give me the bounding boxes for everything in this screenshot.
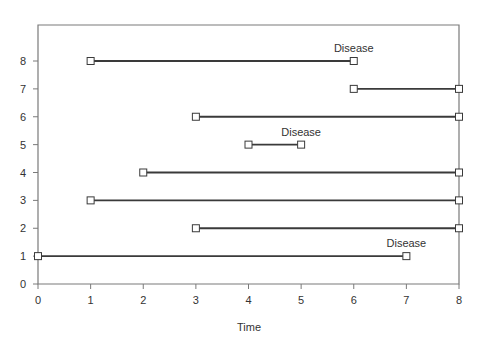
y-tick-label: 4	[20, 167, 26, 179]
end-marker-icon	[456, 225, 463, 232]
subject-segment	[87, 197, 462, 204]
subject-segment	[192, 113, 462, 120]
follow-up-chart: 012345678 012345678 DiseaseDiseaseDiseas…	[0, 0, 482, 338]
start-marker-icon	[245, 141, 252, 148]
subject-segment	[35, 253, 410, 260]
disease-label: Disease	[387, 237, 427, 249]
y-tick-label: 5	[20, 139, 26, 151]
x-tick-label: 0	[35, 294, 41, 306]
x-tick-label: 8	[456, 294, 462, 306]
subject-segment	[192, 225, 462, 232]
start-marker-icon	[87, 197, 94, 204]
y-tick-label: 2	[20, 222, 26, 234]
start-marker-icon	[350, 85, 357, 92]
end-marker-icon	[403, 253, 410, 260]
x-axis: 012345678	[35, 284, 462, 306]
start-marker-icon	[192, 113, 199, 120]
y-tick-label: 8	[20, 55, 26, 67]
x-tick-label: 7	[403, 294, 409, 306]
y-tick-label: 7	[20, 83, 26, 95]
disease-label: Disease	[281, 126, 321, 138]
y-tick-label: 0	[20, 278, 26, 290]
end-marker-icon	[456, 169, 463, 176]
x-tick-label: 6	[351, 294, 357, 306]
subject-segment	[245, 141, 305, 148]
subject-segment	[350, 85, 462, 92]
subject-segment	[87, 58, 357, 65]
x-axis-label: Time	[237, 321, 261, 333]
start-marker-icon	[140, 169, 147, 176]
y-tick-label: 6	[20, 111, 26, 123]
y-tick-label: 1	[20, 250, 26, 262]
start-marker-icon	[35, 253, 42, 260]
x-tick-label: 1	[88, 294, 94, 306]
disease-label: Disease	[334, 42, 374, 54]
end-marker-icon	[456, 197, 463, 204]
subject-segment	[140, 169, 463, 176]
start-marker-icon	[192, 225, 199, 232]
end-marker-icon	[456, 85, 463, 92]
y-tick-label: 3	[20, 194, 26, 206]
end-marker-icon	[456, 113, 463, 120]
x-tick-label: 3	[193, 294, 199, 306]
x-tick-label: 2	[140, 294, 146, 306]
x-tick-label: 5	[298, 294, 304, 306]
start-marker-icon	[87, 58, 94, 65]
follow-up-segments	[35, 58, 463, 260]
end-marker-icon	[298, 141, 305, 148]
end-marker-icon	[350, 58, 357, 65]
x-tick-label: 4	[245, 294, 251, 306]
